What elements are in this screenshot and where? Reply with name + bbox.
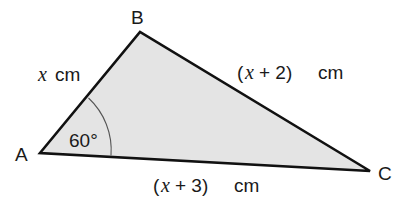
side-label-ab: x cm xyxy=(37,63,80,85)
svg-text:x: x xyxy=(160,174,170,196)
svg-text:cm: cm xyxy=(318,62,343,83)
angle-label-a: 60° xyxy=(69,130,98,151)
vertex-label-c: C xyxy=(378,163,392,184)
svg-text:x: x xyxy=(37,63,47,85)
svg-text:cm: cm xyxy=(234,175,259,196)
svg-text:(: ( xyxy=(237,62,244,83)
svg-text:+ 3): + 3) xyxy=(175,175,208,196)
svg-text:cm: cm xyxy=(55,64,80,85)
vertex-label-a: A xyxy=(15,144,28,165)
svg-text:+ 2): + 2) xyxy=(259,62,292,83)
svg-text:x: x xyxy=(244,61,254,83)
side-label-bc: ( x + 2) cm xyxy=(237,61,343,83)
triangle-diagram: A B C 60° x cm ( x + 2) cm ( x + 3) cm xyxy=(0,0,402,208)
svg-text:(: ( xyxy=(153,175,160,196)
vertex-label-b: B xyxy=(131,7,144,28)
side-label-ac: ( x + 3) cm xyxy=(153,174,259,196)
